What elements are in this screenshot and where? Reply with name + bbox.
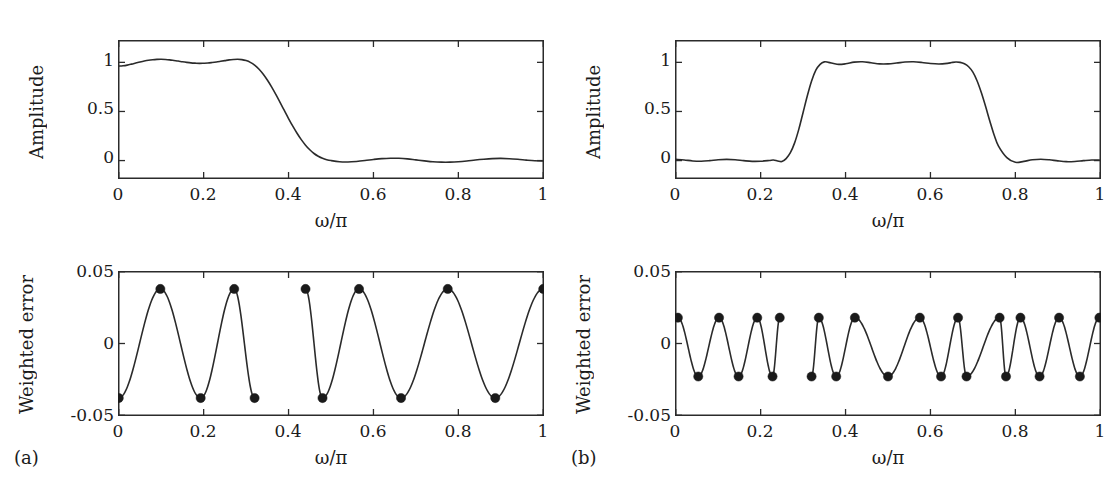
xtick-a-amp-02: 0.2: [189, 186, 216, 203]
ytick-a-amp-05: 0.5: [68, 100, 114, 117]
xtick-b-amp-02: 0.2: [746, 186, 773, 203]
xtick-a-err-1: 1: [538, 423, 549, 440]
xtick-b-err-06: 0.6: [916, 423, 943, 440]
xtick-a-err-06: 0.6: [359, 423, 386, 440]
ylabel-b-amplitude: Amplitude: [585, 52, 607, 172]
xtick-b-amp-1: 1: [1095, 186, 1106, 203]
ylabel-a-weighted-error: Weighted error: [18, 265, 40, 425]
panel-b-amplitude-plot: [675, 40, 1101, 179]
xtick-b-err-1: 1: [1095, 423, 1106, 440]
xtick-a-err-02: 0.2: [189, 423, 216, 440]
xtick-b-err-02: 0.2: [746, 423, 773, 440]
panel-tag-a: (a): [14, 449, 39, 467]
xtick-a-amp-06: 0.6: [359, 186, 386, 203]
panel-tag-b: (b): [571, 449, 597, 467]
xtick-b-err-0: 0: [670, 423, 681, 440]
panel-a-amplitude: [118, 40, 544, 179]
panel-b-amplitude: [675, 40, 1101, 179]
ytick-b-err-0: 0: [605, 335, 671, 352]
xtick-a-amp-1: 1: [538, 186, 549, 203]
xtick-b-amp-0: 0: [670, 186, 681, 203]
xlabel-b-weighted-error: ω/π: [872, 449, 905, 467]
xlabel-a-weighted-error: ω/π: [315, 449, 348, 467]
ytick-b-err-neg005: -0.05: [605, 407, 671, 424]
ytick-b-amp-0: 0: [625, 149, 671, 166]
ytick-b-err-005: 0.05: [605, 263, 671, 280]
ylabel-a-amplitude: Amplitude: [28, 52, 50, 172]
xtick-a-err-04: 0.4: [274, 423, 301, 440]
panel-a-weighted-error: [118, 271, 544, 416]
xlabel-b-amplitude: ω/π: [872, 212, 905, 230]
ytick-a-amp-0: 0: [68, 149, 114, 166]
xtick-a-amp-08: 0.8: [444, 186, 471, 203]
xtick-b-amp-08: 0.8: [1001, 186, 1028, 203]
xtick-a-err-0: 0: [113, 423, 124, 440]
panel-a-amplitude-plot: [118, 40, 544, 179]
xtick-a-amp-04: 0.4: [274, 186, 301, 203]
xtick-b-amp-04: 0.4: [831, 186, 858, 203]
xtick-b-err-08: 0.8: [1001, 423, 1028, 440]
xtick-a-amp-0: 0: [113, 186, 124, 203]
panel-b-weighted-error-plot: [675, 271, 1101, 416]
xtick-b-amp-06: 0.6: [916, 186, 943, 203]
ytick-a-err-0: 0: [48, 335, 114, 352]
xtick-b-err-04: 0.4: [831, 423, 858, 440]
xtick-a-err-08: 0.8: [444, 423, 471, 440]
ytick-a-err-neg005: -0.05: [48, 407, 114, 424]
xlabel-a-amplitude: ω/π: [315, 212, 348, 230]
panel-b-weighted-error: [675, 271, 1101, 416]
ylabel-b-weighted-error: Weighted error: [575, 265, 597, 425]
panel-a-weighted-error-plot: [118, 271, 544, 416]
ytick-a-err-005: 0.05: [48, 263, 114, 280]
ytick-b-amp-1: 1: [625, 52, 671, 69]
ytick-a-amp-1: 1: [68, 52, 114, 69]
ytick-b-amp-05: 0.5: [625, 100, 671, 117]
figure-root: 1 0.5 0 Amplitude 0 0.2 0.4 0.6 0.8 1 ω/…: [0, 0, 1117, 491]
